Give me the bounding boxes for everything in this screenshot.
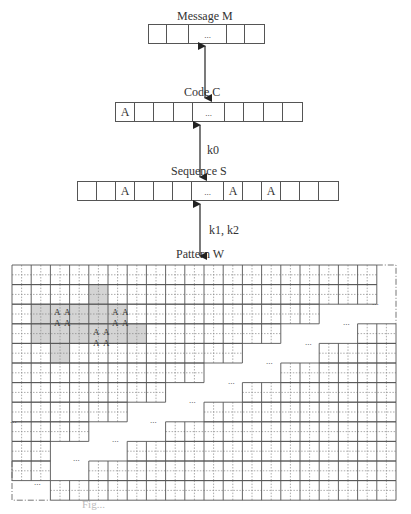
ellipsis-mark: ...	[372, 297, 379, 307]
ellipsis-mark: ...	[266, 356, 273, 366]
ellipsis-mark: ...	[10, 415, 17, 425]
ellipsis-mark: ...	[228, 376, 235, 386]
a-marker: A	[54, 318, 61, 328]
a-marker: A	[54, 307, 61, 317]
figure-caption: Fig...	[82, 498, 105, 510]
ellipsis-mark: ...	[150, 415, 157, 425]
ellipsis-mark: ...	[305, 337, 312, 347]
a-marker: A	[112, 318, 119, 328]
a-marker: A	[122, 307, 129, 317]
a-marker: A	[103, 338, 110, 348]
pattern-grid: .................................AAAAAAA…	[10, 265, 396, 500]
a-marker: A	[93, 338, 100, 348]
a-marker: A	[64, 307, 71, 317]
a-marker: A	[112, 307, 119, 317]
ellipsis-mark: ...	[343, 317, 350, 327]
a-marker: A	[64, 318, 71, 328]
ellipsis-mark: ...	[189, 395, 196, 405]
ellipsis-mark: ...	[112, 434, 119, 444]
a-marker: A	[122, 318, 129, 328]
a-marker: A	[93, 327, 100, 337]
ellipsis-mark: ...	[34, 477, 41, 487]
a-marker: A	[103, 327, 110, 337]
diagram-canvas: .................................AAAAAAA…	[0, 0, 411, 514]
ellipsis-mark: ...	[73, 453, 80, 463]
